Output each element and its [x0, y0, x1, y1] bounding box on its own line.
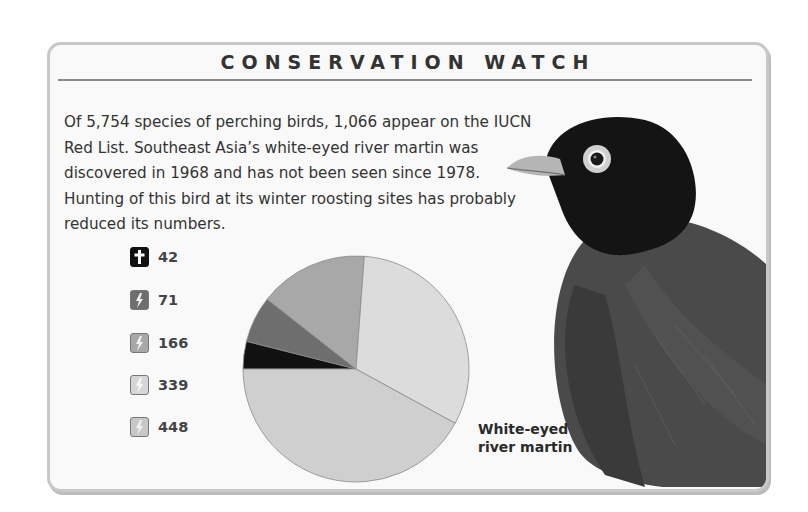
- lightning-icon: [130, 333, 149, 353]
- bird-caption: White-eyed river martin: [478, 420, 573, 456]
- red-list-pie-chart: [240, 253, 472, 485]
- panel-title: CONSERVATION WATCH: [50, 51, 766, 73]
- conservation-watch-panel: CONSERVATION WATCH Of 5,754 species of p…: [47, 42, 769, 492]
- title-divider: [58, 79, 752, 81]
- legend-count: 448: [158, 419, 188, 435]
- legend-count: 71: [158, 292, 178, 308]
- legend-count: 166: [158, 335, 188, 351]
- lightning-icon: [130, 290, 149, 310]
- cross-icon: [130, 247, 149, 267]
- caption-line-2: river martin: [478, 438, 573, 456]
- intro-paragraph: Of 5,754 species of perching birds, 1,06…: [64, 110, 534, 238]
- legend-count: 339: [158, 377, 188, 393]
- legend-count: 42: [158, 249, 178, 265]
- lightning-icon: [130, 375, 149, 395]
- caption-line-1: White-eyed: [478, 420, 573, 438]
- lightning-icon: [130, 417, 149, 437]
